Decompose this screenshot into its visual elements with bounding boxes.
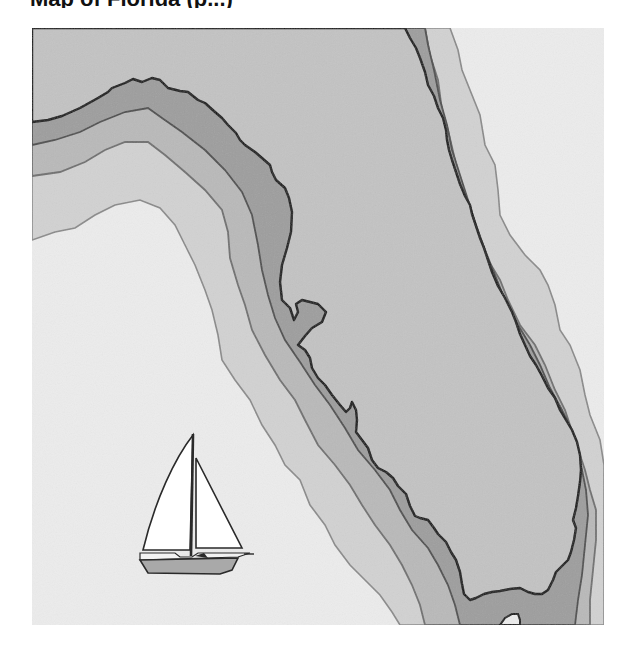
page-title-cropped: Map of Florida (p...) (30, 0, 233, 8)
florida-map (32, 28, 604, 625)
